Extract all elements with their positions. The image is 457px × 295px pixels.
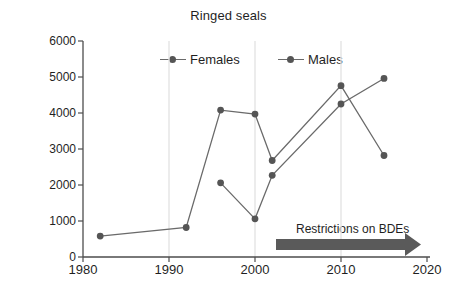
- data-point: [217, 179, 224, 186]
- series-line-males: [221, 78, 384, 218]
- data-point: [381, 152, 388, 159]
- data-point: [183, 224, 190, 231]
- restrictions-arrow-icon: [106, 0, 422, 256]
- gridlines: [169, 41, 341, 257]
- data-point: [381, 75, 388, 82]
- data-point: [252, 215, 259, 222]
- plot-canvas: [0, 0, 457, 295]
- chart-figure: Ringed seals Total tri- to hepta-BDE(pg/…: [0, 0, 457, 295]
- data-point: [217, 107, 224, 114]
- data-point: [338, 101, 345, 108]
- axis-lines: [78, 41, 430, 262]
- data-point: [269, 172, 276, 179]
- data-point: [338, 82, 345, 89]
- data-point: [97, 233, 104, 240]
- series-males: [217, 75, 387, 222]
- data-series-layer: [97, 75, 388, 239]
- data-point: [252, 111, 259, 118]
- data-point: [269, 157, 276, 164]
